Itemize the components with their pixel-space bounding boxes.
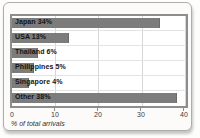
bar-row-philippines: Philippines 5% bbox=[12, 61, 186, 76]
bar-row-usa: USA 13% bbox=[12, 31, 186, 46]
chart-card: Japan 34%USA 13%Thailand 6%Philippines 5… bbox=[3, 2, 192, 131]
x-axis-ticks: 010203040 bbox=[12, 111, 184, 120]
bar-label-thailand: Thailand 6% bbox=[15, 48, 57, 55]
bar-row-other: Other 38% bbox=[12, 91, 186, 106]
bar-label-philippines: Philippines 5% bbox=[15, 63, 66, 70]
plot-area: Japan 34%USA 13%Thailand 6%Philippines 5… bbox=[10, 14, 188, 108]
bar-row-japan: Japan 34% bbox=[12, 16, 186, 31]
bar-label-japan: Japan 34% bbox=[15, 18, 52, 25]
bar-label-other: Other 38% bbox=[15, 93, 51, 100]
bar-label-usa: USA 13% bbox=[15, 33, 46, 40]
x-tick-10: 10 bbox=[51, 111, 59, 118]
x-tick-20: 20 bbox=[94, 111, 102, 118]
x-tick-30: 30 bbox=[137, 111, 145, 118]
bar-label-singapore: Singapore 4% bbox=[15, 78, 63, 85]
bar-row-singapore: Singapore 4% bbox=[12, 76, 186, 91]
x-axis-label: % of total arrivals bbox=[11, 120, 65, 127]
x-tick-40: 40 bbox=[180, 111, 188, 118]
bar-row-thailand: Thailand 6% bbox=[12, 46, 186, 61]
x-tick-0: 0 bbox=[10, 111, 14, 118]
bar-rows: Japan 34%USA 13%Thailand 6%Philippines 5… bbox=[12, 16, 186, 106]
